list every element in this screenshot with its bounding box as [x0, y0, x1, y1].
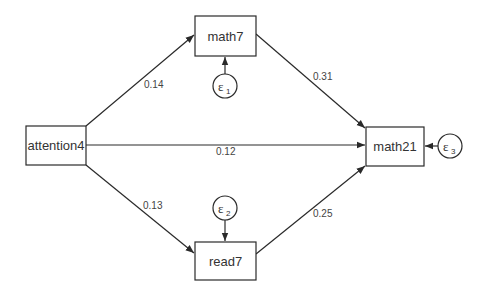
error-sub-e2: 2 [226, 209, 231, 218]
coef-attention4-math21: 0.12 [216, 146, 236, 157]
error-sub-e1: 1 [226, 87, 231, 96]
edge-math7-math21 [256, 34, 365, 128]
node-read7: read7 [195, 242, 256, 280]
coef-attention4-math7: 0.14 [144, 79, 164, 90]
coef-math7-math21: 0.31 [313, 71, 333, 82]
node-math7: math7 [195, 16, 256, 56]
error-symbol-e3: ε [443, 139, 449, 154]
edge-attention4-math7 [86, 35, 194, 126]
coef-read7-math21: 0.25 [313, 208, 333, 219]
edge-attention4-read7 [86, 165, 194, 253]
edge-read7-math21 [256, 166, 365, 254]
error-symbol-e1: ε [218, 79, 224, 94]
node-attention4: attention4 [26, 126, 86, 165]
error-sub-e3: 3 [451, 147, 456, 156]
node-label-math7: math7 [207, 29, 243, 44]
node-label-attention4: attention4 [27, 138, 84, 153]
error-e1: ε 1 [213, 74, 237, 98]
node-label-math21: math21 [373, 139, 416, 154]
node-math21: math21 [366, 127, 424, 166]
path-diagram: 0.14 0.12 0.13 0.31 0.25 attention4 math… [0, 0, 485, 291]
node-label-read7: read7 [209, 254, 242, 269]
coef-attention4-read7: 0.13 [143, 200, 163, 211]
error-symbol-e2: ε [218, 201, 224, 216]
error-e3: ε 3 [438, 134, 462, 158]
error-e2: ε 2 [213, 196, 237, 220]
